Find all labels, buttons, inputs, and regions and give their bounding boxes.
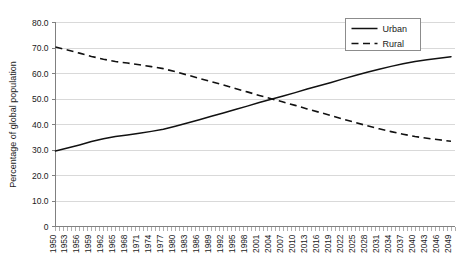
x-tick-label: 1968 [119, 234, 129, 253]
x-tick-label: 1950 [48, 234, 58, 253]
x-tick-label: 1992 [215, 234, 225, 253]
x-tick-label: 1995 [227, 234, 237, 253]
y-tick-label: 0 [44, 222, 49, 232]
x-tick-label: 1962 [95, 234, 105, 253]
x-tick-label: 1953 [59, 234, 69, 253]
x-tick-label: 2037 [395, 234, 405, 253]
x-tick-label: 1980 [167, 234, 177, 253]
y-tick-label: 50.0 [32, 94, 49, 104]
y-tick-label: 30.0 [32, 145, 49, 155]
legend-label-urban[interactable]: Urban [383, 24, 408, 34]
x-tick-label: 1998 [239, 234, 249, 253]
x-axis-minor-ticks [56, 227, 456, 231]
y-tick-label: 10.0 [32, 196, 49, 206]
x-tick-label: 2046 [431, 234, 441, 253]
x-tick-label: 1959 [83, 234, 93, 253]
x-tick-label: 2028 [359, 234, 369, 253]
x-tick-label: 1977 [155, 234, 165, 253]
y-axis-tick-labels: 010.020.030.040.050.060.070.080.0 [32, 18, 49, 232]
x-tick-label: 2013 [299, 234, 309, 253]
x-tick-label: 2043 [419, 234, 429, 253]
y-tick-label: 60.0 [32, 69, 49, 79]
x-tick-label: 2025 [347, 234, 357, 253]
chart-canvas: 010.020.030.040.050.060.070.080.0 195019… [0, 0, 464, 278]
x-tick-label: 2001 [251, 234, 261, 253]
x-tick-label: 1983 [179, 234, 189, 253]
x-tick-label: 2049 [443, 234, 453, 253]
y-tick-label: 80.0 [32, 18, 49, 28]
x-tick-label: 2034 [383, 234, 393, 253]
x-tick-label: 2010 [287, 234, 297, 253]
x-tick-label: 1965 [107, 234, 117, 253]
x-tick-label: 1974 [143, 234, 153, 253]
x-tick-label: 2031 [371, 234, 381, 253]
x-tick-label: 2040 [407, 234, 417, 253]
y-axis-title: Percentage of global population [8, 61, 18, 188]
x-tick-label: 2016 [311, 234, 321, 253]
y-tick-label: 40.0 [32, 120, 49, 130]
x-tick-label: 2022 [335, 234, 345, 253]
x-tick-label: 2004 [263, 234, 273, 253]
x-tick-label: 1971 [131, 234, 141, 253]
x-tick-label: 2007 [275, 234, 285, 253]
y-tick-label: 20.0 [32, 171, 49, 181]
chart-legend[interactable]: UrbanRural [346, 19, 421, 51]
x-tick-label: 1986 [191, 234, 201, 253]
y-tick-label: 70.0 [32, 43, 49, 53]
x-tick-label: 1956 [71, 234, 81, 253]
x-tick-label: 2019 [323, 234, 333, 253]
x-tick-label: 1989 [203, 234, 213, 253]
legend-label-rural[interactable]: Rural [383, 39, 405, 49]
line-chart: 010.020.030.040.050.060.070.080.0 195019… [0, 0, 464, 278]
